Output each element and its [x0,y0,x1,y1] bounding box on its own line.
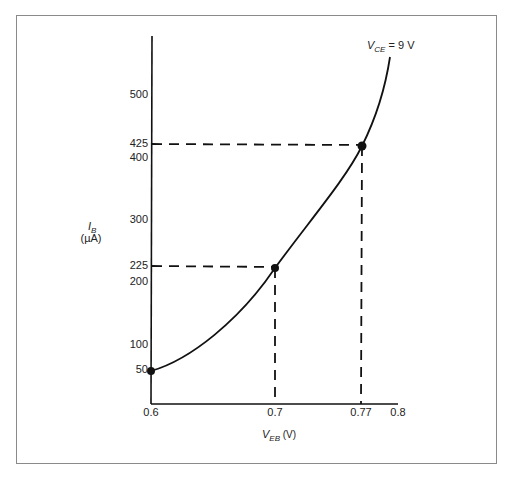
y-tick-50: 50 [136,363,148,375]
x-tick-0.6: 0.6 [143,406,158,418]
guide-lines [152,144,362,404]
chart: 500 425 400 300 225 200 100 50 0.6 0.7 0… [0,0,516,486]
x-tick-0.7: 0.7 [267,406,282,418]
y-axis-unit: (µA) [80,232,101,244]
x-axis-label: VEB (V) [262,428,296,443]
curve-label: VCE = 9 V [367,39,415,54]
x-tick-0.77: 0.77 [350,406,371,418]
y-tick-200: 200 [130,275,148,287]
y-tick-300: 300 [130,213,148,225]
y-tick-425: 425 [130,137,148,149]
curve-vce-9v [151,57,390,371]
y-tick-225: 225 [130,259,148,271]
y-axis [151,36,152,404]
point-0.7-225 [271,264,279,272]
x-tick-0.8: 0.8 [390,406,405,418]
y-tick-100: 100 [130,338,148,350]
y-tick-400: 400 [130,151,148,163]
point-0.6-50 [147,367,155,375]
point-0.77-425 [358,142,367,151]
y-tick-500: 500 [130,88,148,100]
